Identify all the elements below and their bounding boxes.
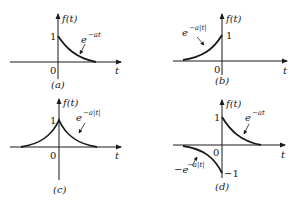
origin-label: 0 <box>214 64 220 75</box>
y-axis-label: f(t) <box>62 97 79 108</box>
curve-rising-exponential <box>183 35 222 60</box>
panel-caption: (a) <box>51 79 65 90</box>
tick-label-1: 1 <box>226 30 232 41</box>
panel-caption: (d) <box>215 181 229 192</box>
tick-label-1: 1 <box>50 115 56 126</box>
curve-positive-decaying-exponential <box>222 117 261 145</box>
curve-label-base: e <box>81 34 87 45</box>
tick-label-1: 1 <box>214 112 220 123</box>
label-leader <box>79 123 85 133</box>
label-leader <box>80 44 85 54</box>
x-axis-label: t <box>281 149 286 160</box>
label-leader-upper <box>244 124 249 134</box>
x-axis-label: t <box>115 150 120 161</box>
origin-label: 0 <box>50 65 56 76</box>
x-axis-label: t <box>283 65 288 76</box>
panel-a: f(t) 1 0 t e −at (a) <box>10 13 121 90</box>
curve-label-base: e <box>245 112 251 123</box>
origin-label: 0 <box>213 147 219 158</box>
curve-label-base: e <box>182 27 188 38</box>
curve2-label-exponent: −a|t| <box>187 161 205 169</box>
curve-label-exponent: −a|t| <box>189 24 207 32</box>
panel-caption: (c) <box>53 184 67 195</box>
y-axis-label: f(t) <box>225 98 242 109</box>
y-axis-label: f(t) <box>61 13 78 24</box>
curve-decaying-exponential <box>58 36 96 62</box>
tick-label-minus-1: −1 <box>224 168 239 179</box>
curve-label-exponent: −at <box>88 31 101 39</box>
curve-label-base: e <box>76 112 82 123</box>
panel-d: f(t) 1 −1 0 t e −at −e −a|t| (d) <box>173 98 286 192</box>
origin-label: 0 <box>50 150 56 161</box>
panel-caption: (b) <box>215 75 229 86</box>
tick-label-1: 1 <box>50 31 56 42</box>
label-leader <box>197 37 204 45</box>
panel-c: f(t) 1 0 t e −a|t| (c) <box>10 97 121 195</box>
y-axis-label: f(t) <box>225 13 242 24</box>
x-axis-label: t <box>115 65 120 76</box>
curve-label-exponent: −at <box>252 109 265 117</box>
exponential-signals-figure: f(t) 1 0 t e −at (a) f(t) 1 0 t e −a|t| … <box>0 0 301 211</box>
panel-b: f(t) 1 0 t e −a|t| (b) <box>173 13 288 86</box>
curve-label-exponent: −a|t| <box>83 109 101 117</box>
